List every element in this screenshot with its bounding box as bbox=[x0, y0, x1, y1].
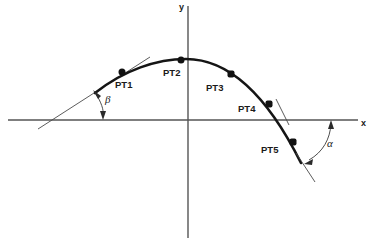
point-marker-pt5 bbox=[290, 139, 297, 146]
right-tangent-line bbox=[296, 153, 315, 182]
x-axis-label: x bbox=[361, 118, 366, 128]
y-axis-label: y bbox=[179, 2, 184, 12]
alpha-arrow-upper bbox=[328, 120, 334, 129]
point-marker-pt3 bbox=[228, 71, 235, 78]
beta-angle-label: β bbox=[104, 93, 111, 105]
alpha-angle-label: α bbox=[327, 137, 333, 149]
curve-angle-diagram: β α PT1 PT2 PT3 PT4 PT5 bbox=[0, 0, 372, 241]
point-marker-pt1 bbox=[119, 69, 126, 76]
point-label-pt4: PT4 bbox=[238, 103, 256, 114]
beta-angle-group: β bbox=[93, 90, 111, 120]
axis-labels-group: x y bbox=[179, 2, 366, 128]
axes-group bbox=[8, 6, 358, 238]
point-label-pt2: PT2 bbox=[163, 67, 180, 78]
point-labels-group: PT1 PT2 PT3 PT4 PT5 bbox=[115, 67, 279, 155]
beta-arrow-lower bbox=[100, 111, 106, 120]
point-label-pt3: PT3 bbox=[206, 82, 223, 93]
alpha-arrow-lower bbox=[304, 159, 313, 165]
alpha-angle-group: α bbox=[304, 120, 334, 165]
curve-points-group bbox=[119, 57, 297, 146]
point-label-pt5: PT5 bbox=[261, 144, 279, 155]
point-label-pt1: PT1 bbox=[115, 79, 133, 90]
point-marker-pt2 bbox=[178, 57, 185, 64]
point-marker-pt4 bbox=[266, 101, 273, 108]
